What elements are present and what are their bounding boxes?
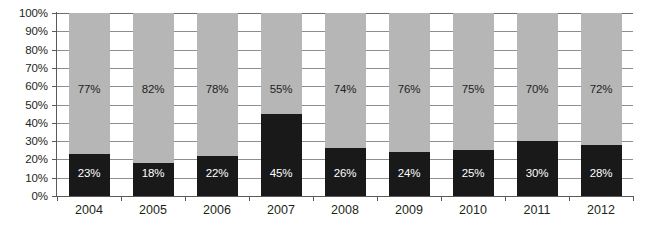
x-axis-tick-label: 2010 [459,203,487,217]
bar-group: 72%28% [581,13,622,196]
bar-segment-label: 77% [69,83,110,95]
bar-segment-label: 72% [581,83,622,95]
bar-segment-top: 77% [69,13,110,154]
bar-segment-top: 74% [325,13,366,148]
y-axis-tickmark [52,159,57,160]
y-axis-tickmark [52,31,57,32]
bar-group: 76%24% [389,13,430,196]
x-axis-tick-label: 2008 [331,203,359,217]
x-axis-tick-label: 2004 [75,203,103,217]
y-axis-tick-label: 70% [25,62,48,74]
y-axis-tick-label: 60% [25,80,48,92]
bar-segment-top: 75% [453,13,494,150]
bar-segment-label: 18% [133,167,174,179]
x-axis-line [56,196,634,197]
bar-segment-bottom: 45% [261,114,302,196]
y-axis-tick-label: 0% [32,190,48,202]
x-axis-tick-label: 2009 [395,203,423,217]
bar-segment-top: 55% [261,13,302,114]
bar-group: 75%25% [453,13,494,196]
bar-segment-top: 72% [581,13,622,145]
y-axis-tickmark [52,68,57,69]
bar-segment-top: 70% [517,13,558,141]
y-axis-tick-label: 80% [25,44,48,56]
bar-group: 70%30% [517,13,558,196]
bar-segment-label: 25% [453,167,494,179]
bar-segment-label: 30% [517,167,558,179]
y-axis-tickmark [52,13,57,14]
bars-layer: 77%23%82%18%78%22%55%45%74%26%76%24%75%2… [57,13,633,196]
bar-segment-bottom: 23% [69,154,110,196]
y-axis-tick-label: 90% [25,25,48,37]
bar-group: 74%26% [325,13,366,196]
y-axis-tick-label: 30% [25,135,48,147]
bar-segment-label: 76% [389,83,430,95]
x-axis-tick-label: 2011 [524,203,551,217]
bar-segment-label: 22% [197,167,238,179]
bar-group: 82%18% [133,13,174,196]
x-axis-tick-label: 2012 [587,203,615,217]
x-axis-tick-label: 2005 [139,203,167,217]
bar-segment-label: 75% [453,83,494,95]
y-axis-tickmark [52,86,57,87]
bar-segment-bottom: 30% [517,141,558,196]
bar-segment-label: 70% [517,83,558,95]
bar-segment-label: 26% [325,167,366,179]
bar-segment-bottom: 18% [133,163,174,196]
bar-segment-label: 78% [197,83,238,95]
bar-segment-top: 78% [197,13,238,156]
x-axis-labels: 200420052006200720082009201020112012 [57,200,633,228]
y-axis-tickmark [52,178,57,179]
bar-segment-top: 82% [133,13,174,163]
bar-segment-top: 76% [389,13,430,152]
y-axis-tick-label: 50% [25,99,48,111]
bar-segment-label: 23% [69,167,110,179]
y-axis-tick-label: 10% [25,172,48,184]
y-axis-tickmark [52,50,57,51]
y-axis-tickmark [52,141,57,142]
y-axis-tickmark [52,105,57,106]
bar-segment-label: 24% [389,167,430,179]
bar-segment-bottom: 28% [581,145,622,196]
stacked-bar-chart: 0%10%20%30%40%50%60%70%80%90%100% 77%23%… [0,0,650,233]
bar-segment-label: 74% [325,83,366,95]
bar-segment-label: 55% [261,83,302,95]
x-axis-tick-label: 2006 [203,203,231,217]
x-axis-tick-label: 2007 [267,203,295,217]
y-axis-tickmark [52,123,57,124]
bar-segment-bottom: 25% [453,150,494,196]
bar-segment-label: 82% [133,83,174,95]
bar-segment-bottom: 22% [197,156,238,196]
bar-group: 55%45% [261,13,302,196]
bar-segment-bottom: 24% [389,152,430,196]
y-axis-tick-label: 40% [25,117,48,129]
bar-segment-label: 28% [581,167,622,179]
y-axis-tick-label: 100% [19,7,48,19]
y-axis-tick-label: 20% [25,153,48,165]
bar-segment-label: 45% [261,167,302,179]
bar-group: 77%23% [69,13,110,196]
bar-segment-bottom: 26% [325,148,366,196]
x-axis-tickmark [633,196,634,201]
plot-area: 77%23%82%18%78%22%55%45%74%26%76%24%75%2… [57,13,633,196]
y-axis-labels: 0%10%20%30%40%50%60%70%80%90%100% [0,0,53,233]
bar-group: 78%22% [197,13,238,196]
